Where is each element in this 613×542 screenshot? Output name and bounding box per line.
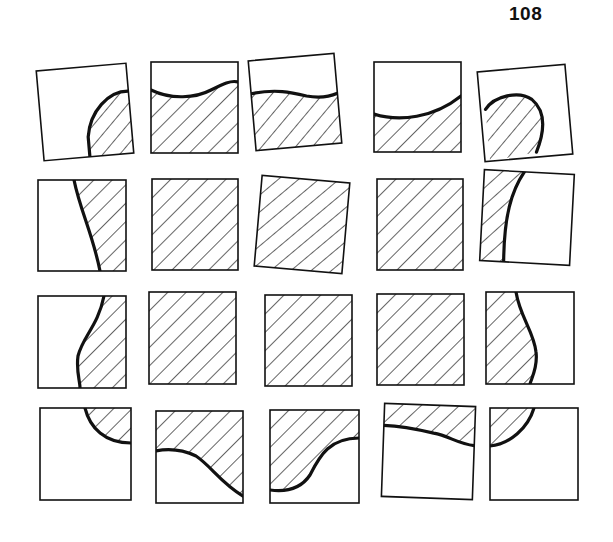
hatched-region [149, 292, 236, 384]
puzzle-tile-r2c5[interactable] [480, 170, 575, 266]
puzzle-tile-r1c4[interactable] [374, 62, 461, 152]
puzzle-tile-r4c1[interactable] [40, 408, 131, 500]
puzzle-tile-r1c5[interactable] [477, 64, 573, 161]
puzzle-tile-r3c2[interactable] [149, 292, 236, 384]
puzzle-tile-r2c1[interactable] [38, 180, 126, 271]
puzzle-tile-r4c3[interactable] [270, 410, 359, 503]
puzzle-tile-r3c4[interactable] [377, 294, 464, 385]
puzzle-tile-r1c3[interactable] [248, 53, 342, 150]
tiles-layer [36, 53, 578, 503]
hatched-region [265, 295, 352, 386]
puzzle-tile-r4c2[interactable] [156, 411, 243, 503]
puzzle-tile-r3c5[interactable] [486, 292, 574, 384]
puzzle-tile-r4c5[interactable] [490, 408, 578, 500]
puzzle-tile-r3c3[interactable] [265, 295, 352, 386]
puzzle-tile-r2c3[interactable] [254, 175, 350, 273]
puzzle-tile-r3c1[interactable] [38, 296, 126, 388]
puzzle-tile-r1c1[interactable] [36, 63, 134, 161]
puzzle-grid [0, 0, 613, 542]
hatched-region [377, 179, 463, 270]
hatched-region [152, 179, 238, 270]
puzzle-tile-r1c2[interactable] [151, 62, 238, 153]
hatched-region [377, 294, 464, 385]
hatched-region [254, 175, 350, 273]
puzzle-tile-r4c4[interactable] [381, 403, 475, 499]
puzzle-tile-r2c4[interactable] [377, 179, 463, 270]
puzzle-tile-r2c2[interactable] [152, 179, 238, 270]
